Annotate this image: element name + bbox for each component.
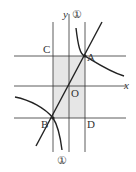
label-a: A xyxy=(87,51,95,63)
label-c: C xyxy=(43,43,50,55)
y-axis-label: y xyxy=(62,8,68,20)
label-d: D xyxy=(87,118,95,130)
label-b: B xyxy=(41,118,48,130)
diagram: y ① x C A O B D ① xyxy=(0,0,136,172)
coordinate-diagram: y ① x C A O B D ① xyxy=(0,0,136,172)
label-o: O xyxy=(71,87,79,99)
curve-label-top: ① xyxy=(72,8,82,20)
curve-label-bottom: ① xyxy=(57,154,67,166)
point-b xyxy=(51,116,54,119)
x-axis-label: x xyxy=(123,79,129,91)
